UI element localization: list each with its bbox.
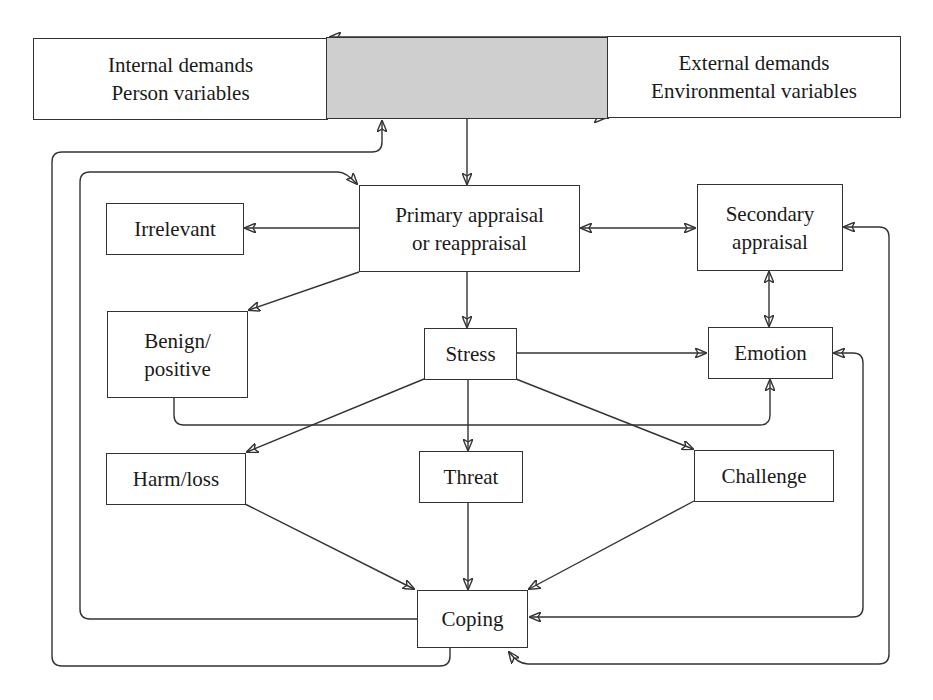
- external-demands-label: External demands: [678, 49, 829, 77]
- reappraisal-label: or reappraisal: [412, 229, 527, 257]
- coping-box: Coping: [417, 590, 528, 648]
- secondary-appraisal-box: Secondary appraisal: [697, 184, 843, 271]
- positive-label: positive: [144, 355, 211, 383]
- arrow-stress-to-harm: [247, 379, 424, 452]
- loop-secondary-coping: [509, 227, 889, 664]
- stress-box: Stress: [424, 328, 517, 380]
- arrow-stress-to-challenge: [516, 379, 693, 449]
- arrow-primary-to-benign: [249, 272, 359, 310]
- coping-label: Coping: [442, 605, 504, 633]
- stress-label: Stress: [445, 340, 495, 368]
- threat-box: Threat: [419, 451, 523, 503]
- arrow-benign-to-emotion: [174, 380, 770, 425]
- irrelevant-box: Irrelevant: [106, 203, 244, 255]
- challenge-box: Challenge: [694, 450, 834, 502]
- arrow-challenge-to-coping: [529, 501, 694, 589]
- harm-loss-box: Harm/loss: [106, 453, 246, 505]
- transaction-box: [326, 37, 609, 119]
- challenge-label: Challenge: [721, 462, 806, 490]
- internal-demands-box: Internal demands Person variables: [33, 38, 328, 120]
- appraisal-label: appraisal: [732, 228, 808, 256]
- benign-positive-box: Benign/ positive: [107, 311, 248, 398]
- person-variables-label: Person variables: [111, 79, 249, 107]
- arrow-harm-to-coping: [245, 504, 414, 589]
- emotion-label: Emotion: [734, 339, 806, 367]
- secondary-label: Secondary: [726, 200, 815, 228]
- primary-appraisal-label: Primary appraisal: [395, 201, 544, 229]
- primary-appraisal-box: Primary appraisal or reappraisal: [359, 185, 580, 272]
- emotion-box: Emotion: [708, 327, 833, 379]
- threat-label: Threat: [444, 463, 499, 491]
- stress-coping-diagram: Internal demands Person variables Extern…: [0, 0, 933, 700]
- environmental-variables-label: Environmental variables: [651, 77, 857, 105]
- benign-label: Benign/: [144, 327, 211, 355]
- irrelevant-label: Irrelevant: [134, 215, 216, 243]
- harm-loss-label: Harm/loss: [133, 465, 219, 493]
- internal-demands-label: Internal demands: [108, 51, 253, 79]
- external-demands-box: External demands Environmental variables: [607, 36, 901, 118]
